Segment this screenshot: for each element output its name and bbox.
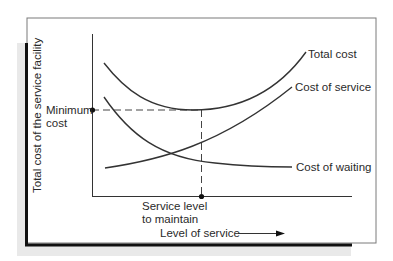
y-axis-label: Total cost of the service facility [31, 37, 43, 193]
minimum-cost-label-line1: Minimum [46, 104, 93, 116]
minimum-cost-label-line2: cost [46, 117, 68, 129]
cost-of-waiting-label: Cost of waiting [296, 161, 371, 173]
service-level-point [199, 194, 204, 199]
total-cost-label: Total cost [308, 48, 357, 60]
service-level-label-line2: to maintain [142, 213, 198, 225]
cost-of-service-label: Cost of service [295, 81, 371, 93]
service-level-label-line1: Service level [142, 200, 207, 212]
x-axis-label: Level of service [160, 227, 240, 239]
cost-tradeoff-diagram: Total cost Cost of service Cost of waiti… [0, 0, 393, 261]
